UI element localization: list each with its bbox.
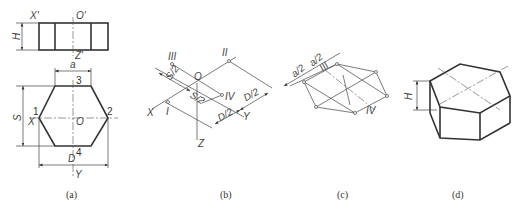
- label-o1: O: [194, 71, 202, 82]
- label-point-2: 2: [107, 106, 113, 117]
- panel-c: a/2 a/2 III IV (c): [284, 51, 389, 201]
- label-point-3: 3: [76, 75, 82, 86]
- label-point-4: 4: [76, 147, 82, 158]
- top-view-hexagon: a S D 1 2 3 4 X O Y: [12, 59, 118, 180]
- label-a2-a: a/2: [289, 62, 307, 80]
- panel-a: X' O' Z' H a S D 1 2 3: [11, 10, 118, 201]
- caption-d: (d): [452, 189, 464, 201]
- caption-a: (a): [66, 189, 77, 201]
- label-a: a: [70, 59, 76, 70]
- label-o-prime: O': [76, 10, 87, 21]
- panel-b: III II O IV I X Y Z S/2 S/2 D/2 D/2 (b): [146, 47, 272, 201]
- label-z1: Z: [197, 138, 205, 149]
- label-x-prime: X': [29, 10, 40, 21]
- caption-b: (b): [220, 189, 232, 201]
- label-s: S: [12, 114, 23, 121]
- label-iv1: IV: [225, 91, 236, 102]
- drawing-canvas: X' O' Z' H a S D 1 2 3: [0, 0, 523, 209]
- label-i1: I: [166, 106, 169, 117]
- label-y: Y: [75, 169, 83, 180]
- label-x1: X: [146, 107, 154, 118]
- label-d: D: [68, 153, 75, 164]
- label-ii1: II: [222, 47, 228, 58]
- panel-d: H (d): [403, 64, 510, 201]
- front-view: X' O' Z' H: [11, 10, 108, 61]
- label-s2-a: S/2: [163, 63, 181, 82]
- label-iii1: III: [168, 51, 177, 62]
- caption-c: (c): [337, 189, 348, 201]
- label-h-d: H: [403, 92, 414, 100]
- label-d2-b: D/2: [242, 86, 261, 104]
- label-iv1-c: IV: [366, 105, 377, 116]
- label-s2-b: S/2: [188, 89, 207, 106]
- label-h-a: H: [11, 32, 22, 40]
- label-x: X: [27, 116, 35, 127]
- label-o: O: [76, 116, 84, 127]
- label-y1: Y: [243, 111, 251, 122]
- label-d2-a: D/2: [216, 106, 235, 124]
